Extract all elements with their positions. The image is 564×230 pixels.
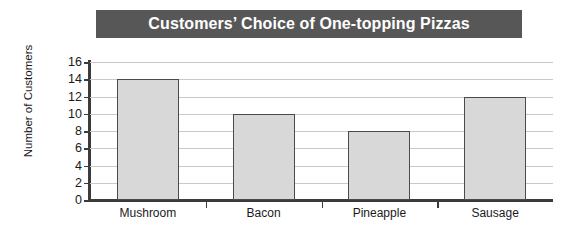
y-axis-tick-mark <box>84 62 90 64</box>
y-axis-tick-mark <box>84 97 90 99</box>
y-axis-tick-mark <box>84 166 90 168</box>
bar-pineapple <box>348 131 410 200</box>
y-axis-tick-mark <box>84 200 90 202</box>
bar-mushroom <box>117 79 179 200</box>
y-axis-tick-mark <box>84 148 90 150</box>
plot-area: 0246810121416 <box>90 62 553 200</box>
x-axis-tick-mark <box>322 200 324 208</box>
y-axis-tick-label: 4 <box>75 159 82 173</box>
x-axis-label-pineapple: Pineapple <box>353 206 406 220</box>
y-axis-tick-mark <box>84 131 90 133</box>
y-axis-tick-mark <box>84 183 90 185</box>
y-axis-tick-mark <box>84 114 90 116</box>
x-axis-tick-mark <box>206 200 208 208</box>
y-axis-tick-label: 6 <box>75 141 82 155</box>
x-axis-label-mushroom: Mushroom <box>120 206 177 220</box>
y-axis-tick-label: 2 <box>75 176 82 190</box>
y-axis-tick-label: 10 <box>68 107 82 121</box>
y-axis-tick-label: 12 <box>68 90 82 104</box>
bar-sausage <box>464 97 526 201</box>
chart-title-banner: Customers’ Choice of One-topping Pizzas <box>96 10 522 38</box>
x-axis-label-bacon: Bacon <box>247 206 281 220</box>
y-axis-tick-label: 14 <box>68 72 82 86</box>
gridline <box>90 62 553 63</box>
bar-bacon <box>233 114 295 200</box>
y-axis-tick-label: 8 <box>75 124 82 138</box>
y-axis-title: Number of Customers <box>22 21 34 181</box>
chart-title: Customers’ Choice of One-topping Pizzas <box>148 16 469 32</box>
bar-chart-figure: Customers’ Choice of One-topping Pizzas … <box>0 0 564 230</box>
x-axis-label-sausage: Sausage <box>471 206 518 220</box>
y-axis-tick-mark <box>84 79 90 81</box>
x-axis-tick-mark <box>437 200 439 208</box>
y-axis-tick-label: 0 <box>75 193 82 207</box>
y-axis-tick-label: 16 <box>68 55 82 69</box>
